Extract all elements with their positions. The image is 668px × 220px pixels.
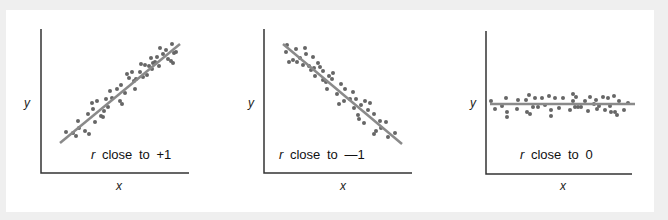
data-points: [489, 92, 630, 119]
x-axis-label: x: [340, 179, 346, 193]
correlation-label: r close to —1: [279, 147, 365, 162]
correlation-label: r close to +1: [91, 147, 171, 162]
correlation-text: close to —1: [290, 147, 365, 162]
y-axis-label: y: [470, 96, 476, 110]
correlation-label: r close to 0: [520, 147, 593, 162]
data-points: [64, 42, 178, 138]
fit-line: [60, 44, 180, 143]
r-symbol: r: [91, 147, 95, 162]
r-symbol: r: [520, 147, 524, 162]
r-symbol: r: [279, 147, 283, 162]
scatter-plots: [0, 0, 668, 220]
correlation-text: close to 0: [531, 147, 593, 162]
y-axis-label: y: [248, 96, 254, 110]
fit-line: [283, 44, 402, 144]
x-axis-label: x: [116, 179, 122, 193]
y-axis-label: y: [24, 96, 30, 110]
x-axis-label: x: [560, 179, 566, 193]
correlation-text: close to +1: [102, 147, 171, 162]
